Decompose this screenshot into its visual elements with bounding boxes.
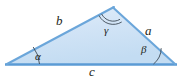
angle-label-gamma: γ bbox=[104, 25, 108, 36]
triangle-figure: b a c α β γ bbox=[0, 0, 182, 82]
angle-label-alpha: α bbox=[35, 51, 41, 62]
side-label-c: c bbox=[89, 65, 95, 78]
side-label-b: b bbox=[56, 14, 63, 27]
side-label-a: a bbox=[145, 24, 152, 37]
angle-label-beta: β bbox=[141, 44, 146, 55]
